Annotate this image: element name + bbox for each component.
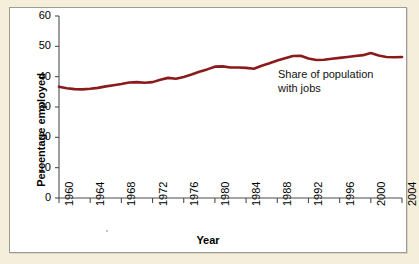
chart-panel: Percentage employed Year 0102030405060 1… bbox=[9, 7, 407, 253]
axes-lines bbox=[59, 16, 402, 198]
figure-container: Percentage employed Year 0102030405060 1… bbox=[0, 0, 419, 264]
x-tick-label: 2004 bbox=[406, 182, 418, 206]
x-tick-marks bbox=[59, 198, 402, 203]
plot-area bbox=[10, 8, 406, 252]
speck-mark bbox=[106, 230, 108, 232]
y-tick-marks bbox=[55, 16, 59, 198]
series-annotation: Share of population with jobs bbox=[278, 68, 373, 96]
